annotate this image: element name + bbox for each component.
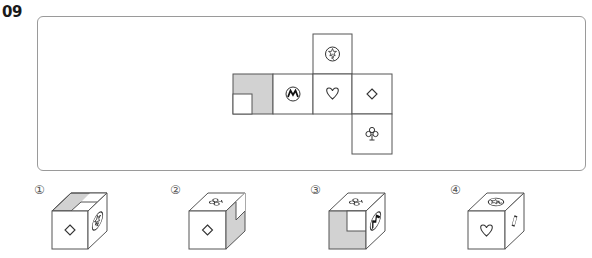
- net-cell-heart: [313, 74, 352, 114]
- option-1-cube[interactable]: [52, 193, 107, 249]
- cube-net: [233, 34, 392, 154]
- net-cell-club: [352, 114, 392, 154]
- option-4-cube[interactable]: [468, 193, 524, 249]
- net-cell-circle-m: [273, 74, 313, 114]
- option-3-cube[interactable]: [329, 193, 385, 249]
- net-cell-shaded-L: [233, 74, 273, 114]
- option-2-cube[interactable]: [189, 193, 245, 249]
- net-cell-diamond: [352, 74, 392, 114]
- net-cell-circle-star: [313, 34, 352, 74]
- figure-canvas: [0, 0, 592, 258]
